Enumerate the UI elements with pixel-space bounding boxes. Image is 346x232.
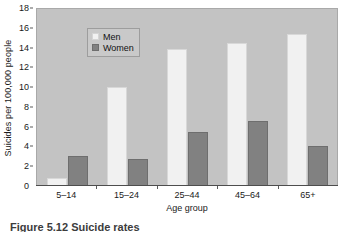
y-axis-tick-mark [30, 126, 33, 127]
x-axis-tick-mark [278, 186, 279, 189]
y-axis-tick-label: 4 [24, 141, 29, 151]
x-axis-tick-label: 15–24 [96, 190, 156, 202]
x-axis-tick-label: 45–64 [217, 190, 277, 202]
y-axis-tick-mark [30, 87, 33, 88]
bar-women [248, 121, 268, 185]
bar-men [47, 178, 67, 185]
plot-area: Men Women [36, 8, 338, 186]
x-axis-tick-label: 65+ [278, 190, 338, 202]
y-axis-tick-label: 8 [24, 102, 29, 112]
x-axis-line [36, 185, 338, 186]
y-axis-tick-mark [30, 166, 33, 167]
bar-group [277, 9, 337, 185]
y-axis-title-text: Suicides per 100,000 people [3, 40, 13, 157]
y-axis-tick-label: 0 [24, 181, 29, 191]
y-axis-tick-label: 12 [19, 62, 29, 72]
y-axis-tick-label: 14 [19, 43, 29, 53]
bar-men [287, 34, 307, 185]
y-axis-tick-label: 16 [19, 23, 29, 33]
legend: Men Women [87, 28, 140, 57]
bar-men [107, 87, 127, 185]
figure-caption: Figure 5.12 Suicide rates [10, 222, 340, 232]
y-axis-tick-mark [30, 146, 33, 147]
legend-label-men: Men [103, 32, 121, 42]
y-axis-tick-label: 6 [24, 122, 29, 132]
legend-swatch-men-icon [92, 33, 99, 40]
bar-group [157, 9, 217, 185]
x-axis-tick-mark [96, 186, 97, 189]
y-axis-tick-mark [30, 106, 33, 107]
y-axis-tick-labels: 024681012141618 [15, 8, 33, 186]
x-axis-tick-label: 25–44 [157, 190, 217, 202]
legend-item-women: Women [92, 42, 134, 53]
y-axis-tick-mark [30, 27, 33, 28]
y-axis-tick-mark [30, 47, 33, 48]
bar-women [308, 146, 328, 185]
bar-group [217, 9, 277, 185]
x-axis-tick-labels: 5–1415–2425–4445–6465+ [36, 190, 338, 202]
bar-women [68, 156, 88, 185]
bar-men [167, 49, 187, 185]
y-axis-tick-label: 18 [19, 3, 29, 13]
y-axis-tick-mark [30, 8, 33, 9]
legend-item-men: Men [92, 31, 134, 42]
x-axis-title: Age group [36, 203, 338, 213]
y-axis-tick-label: 10 [19, 82, 29, 92]
bar-men [227, 43, 247, 185]
y-axis-tick-mark [30, 67, 33, 68]
legend-label-women: Women [103, 43, 134, 53]
bar-women [128, 159, 148, 185]
legend-swatch-women-icon [92, 44, 99, 51]
bar-groups [37, 9, 337, 185]
bar-women [188, 132, 208, 185]
y-axis-title: Suicides per 100,000 people [0, 0, 16, 196]
x-axis-tick-label: 5–14 [36, 190, 96, 202]
y-axis-tick-label: 2 [24, 161, 29, 171]
x-axis-tick-mark [157, 186, 158, 189]
figure-container: Suicides per 100,000 people 024681012141… [0, 0, 346, 232]
x-axis-tick-mark [217, 186, 218, 189]
figure-caption-text: Figure 5.12 Suicide rates [10, 222, 340, 232]
